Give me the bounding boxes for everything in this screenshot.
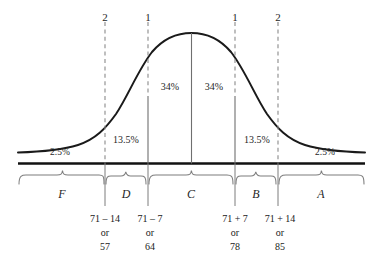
cutoff-label-1: 71 – 14 or 57 — [90, 212, 120, 255]
brace-D — [106, 172, 146, 184]
cutoff-expression-4: 71 + 14 — [265, 212, 296, 226]
cutoff-expression-1: 71 – 14 — [90, 212, 120, 226]
sd-tick-label-plus-1: 1 — [232, 12, 238, 23]
area-label-2_5-left: 2.5% — [50, 148, 70, 158]
cutoff-value-4: 85 — [265, 240, 296, 254]
area-label-34-left: 34% — [161, 82, 179, 92]
cutoff-or-1: or — [90, 226, 120, 240]
grade-label-b: B — [252, 188, 259, 200]
sd-tick-label-plus-2: 2 — [275, 12, 281, 23]
cutoff-value-3: 78 — [222, 240, 248, 254]
grade-label-a: A — [317, 188, 324, 200]
area-label-13_5-right: 13.5% — [244, 135, 270, 145]
area-label-34-right: 34% — [205, 82, 223, 92]
brace-B — [236, 172, 276, 184]
grade-braces — [19, 171, 364, 185]
distribution-drawing — [0, 0, 382, 267]
cutoff-value-1: 57 — [90, 240, 120, 254]
cutoff-or-3: or — [222, 226, 248, 240]
brace-C — [149, 171, 233, 185]
cutoff-value-2: 64 — [138, 240, 163, 254]
cutoff-label-4: 71 + 14 or 85 — [265, 212, 296, 255]
cutoff-label-3: 71 + 7 or 78 — [222, 212, 248, 255]
grade-label-c: C — [187, 188, 195, 200]
normal-distribution-figure: 2 1 1 2 2.5% 13.5% 34% 34% 13.5% 2.5% F … — [0, 0, 382, 267]
sd-tick-label-minus-2: 2 — [102, 12, 108, 23]
cutoff-or-2: or — [138, 226, 163, 240]
cutoff-label-2: 71 – 7 or 64 — [138, 212, 163, 255]
area-label-13_5-left: 13.5% — [113, 135, 139, 145]
brace-A — [279, 171, 364, 185]
cutoff-or-4: or — [265, 226, 296, 240]
grade-label-d: D — [122, 188, 131, 200]
grade-label-f: F — [58, 188, 65, 200]
brace-F — [19, 171, 104, 185]
cutoff-expression-3: 71 + 7 — [222, 212, 248, 226]
cutoff-expression-2: 71 – 7 — [138, 212, 163, 226]
sd-tick-label-minus-1: 1 — [145, 12, 151, 23]
area-label-2_5-right: 2.5% — [315, 148, 335, 158]
